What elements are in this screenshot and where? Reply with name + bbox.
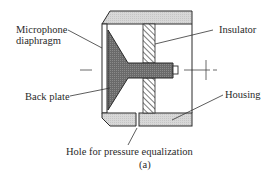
housing-bottom-left	[102, 113, 136, 126]
label-insulator: Insulator	[219, 24, 256, 35]
terminal-nub	[173, 66, 178, 74]
leader-housing	[172, 95, 223, 120]
housing-left-wall	[102, 24, 107, 113]
label-microphone-diaphragm-2: diaphragm	[16, 35, 61, 46]
insulator-upper	[143, 24, 155, 63]
figure-caption: (a)	[139, 159, 151, 170]
label-back-plate: Back plate	[25, 91, 70, 102]
label-microphone-diaphragm-1: Microphone	[16, 24, 67, 35]
leader-diaphragm	[68, 30, 102, 48]
label-housing: Housing	[225, 89, 261, 100]
label-hole-pressure-equalization: Hole for pressure equalization	[66, 146, 193, 157]
leader-hole	[128, 128, 137, 145]
leader-insulator	[155, 30, 213, 44]
housing-bottom-right	[139, 113, 192, 126]
housing-top-bar	[102, 11, 192, 24]
insulator-lower	[143, 78, 155, 113]
